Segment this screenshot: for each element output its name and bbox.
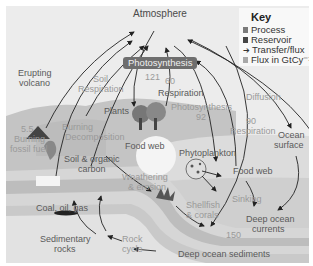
shellfish-label-1: Shellfish xyxy=(186,200,220,210)
burning-fossil-label-2: fossil fuel xyxy=(10,144,48,154)
respiration-land-label: Respiration xyxy=(158,88,204,98)
erupting-volcano-label-1: Erupting xyxy=(18,68,52,78)
flux-121: 121 xyxy=(145,72,160,82)
legend: Key Process Reservoir ➔Transfer/flux Flu… xyxy=(239,8,309,66)
rock-cycle-label-1: Rock xyxy=(122,234,143,244)
legend-item-flux: Flux in GtCy⁻¹ xyxy=(243,54,309,65)
weathering-label-2: & erosion xyxy=(128,182,166,192)
shellfish-label-2: & corals xyxy=(186,210,219,220)
soil-respiration-label-1: Soil xyxy=(93,74,108,84)
respiration-ocean-label: Respiration xyxy=(230,126,276,136)
food-web-land-label: Food web xyxy=(125,141,165,151)
sedimentary-label-2: rocks xyxy=(54,244,76,254)
legend-title: Key xyxy=(251,11,271,23)
deep-currents-label-1: Deep ocean xyxy=(246,214,295,224)
flux-92: 92 xyxy=(196,112,206,122)
photosynthesis-process: Photosynthesis xyxy=(123,57,197,69)
soil-organic-label-1: Soil & organic xyxy=(64,154,120,164)
weathering-label-1: Weathering xyxy=(122,172,168,182)
deep-currents-label-2: currents xyxy=(252,224,285,234)
sedimentary-label-1: Sedimentary xyxy=(40,234,91,244)
decomposition-label: Decomposition xyxy=(65,132,125,142)
ocean-surface-label-2: surface xyxy=(274,140,304,150)
carbon-cycle-diagram: Atmosphere Photosynthesis 121 60 Respira… xyxy=(6,6,309,263)
flux-90: 90 xyxy=(246,116,256,126)
flux-swatch-icon xyxy=(243,57,248,63)
flux-150: 150 xyxy=(226,230,241,240)
ocean-surface-label-1: Ocean xyxy=(278,130,305,140)
soil-organic-label-2: carbon xyxy=(78,164,106,174)
photosynthesis-ocean-label: Photosynthesis xyxy=(171,102,232,112)
erupting-volcano-label-2: volcano xyxy=(19,78,50,88)
process-swatch-icon xyxy=(243,27,248,33)
plants-label: Plants xyxy=(104,106,129,116)
diffusion-label: Diffusion xyxy=(246,92,281,102)
burning-fossil-label-1: Burning xyxy=(14,134,45,144)
flux-5-5: 5.5 xyxy=(21,124,34,134)
reservoir-swatch-icon xyxy=(243,37,248,43)
sinking-label: Sinking xyxy=(232,194,262,204)
rock-cycle-label-2: cycle xyxy=(122,244,143,254)
coal-oil-gas-label: Coal, oil, gas xyxy=(36,203,88,213)
soil-respiration-label-2: Respiration xyxy=(78,84,124,94)
burning-label: Burning xyxy=(62,122,93,132)
flux-60: 60 xyxy=(165,76,175,86)
food-web-ocean-label: Food web xyxy=(233,166,273,176)
phytoplankton-label: Phytoplankton xyxy=(179,148,236,158)
deep-sediments-label: Deep ocean sediments xyxy=(178,249,270,259)
atmosphere-label: Atmosphere xyxy=(133,9,187,19)
